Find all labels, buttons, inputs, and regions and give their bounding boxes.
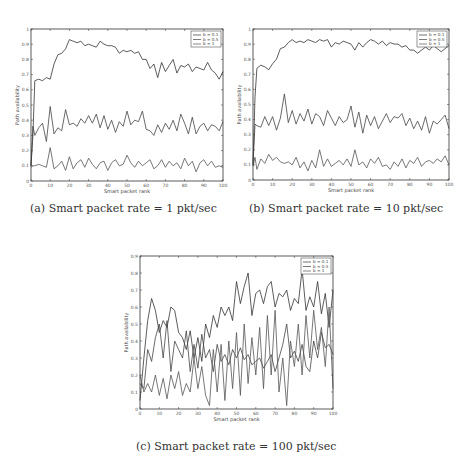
series-line xyxy=(253,150,449,171)
series-line xyxy=(31,40,223,166)
x-tick-label: 70 xyxy=(387,182,393,187)
legend-label: b = 1 xyxy=(313,268,325,273)
legend: b = 0.1b = 0.5b = 1 xyxy=(301,258,331,274)
chart-b: 010203040506070809010000.10.20.30.40.50.… xyxy=(222,10,457,195)
x-tick-label: 80 xyxy=(292,411,298,416)
x-tick-label: 0 xyxy=(30,183,33,188)
y-tick-label: 1 xyxy=(248,27,251,32)
caption-c: (c) Smart packet rate = 100 pkt/sec xyxy=(136,440,336,453)
x-tick-label: 90 xyxy=(201,183,207,188)
x-tick-label: 30 xyxy=(309,182,315,187)
y-tick-label: 0.9 xyxy=(244,42,251,47)
y-tick-label: 0.9 xyxy=(131,254,138,259)
x-tick-label: 10 xyxy=(47,183,53,188)
x-tick-label: 20 xyxy=(289,182,295,187)
series-line xyxy=(253,40,449,165)
x-tick-label: 80 xyxy=(182,183,188,188)
y-tick-label: 0.5 xyxy=(131,322,138,327)
y-tick-label: 0.8 xyxy=(244,57,251,62)
y-tick-label: 0.8 xyxy=(131,271,138,276)
series-line xyxy=(253,94,449,165)
x-axis-label: Smart packet rank xyxy=(328,187,374,194)
x-tick-label: 20 xyxy=(67,183,73,188)
y-tick-label: 0.4 xyxy=(22,118,29,123)
x-tick-label: 30 xyxy=(195,411,201,416)
x-tick-label: 80 xyxy=(407,182,413,187)
y-tick-label: 0.2 xyxy=(22,148,29,153)
y-tick-label: 0.9 xyxy=(22,42,29,47)
x-tick-label: 0 xyxy=(139,411,142,416)
y-tick-label: 0.2 xyxy=(244,147,251,152)
series-line xyxy=(31,148,223,172)
y-tick-label: 0.2 xyxy=(131,373,138,378)
y-tick-label: 0.4 xyxy=(244,117,251,122)
y-tick-label: 1 xyxy=(26,27,29,32)
series-line xyxy=(140,321,333,389)
chart-c: 010203040506070809010000.10.20.30.40.50.… xyxy=(109,237,344,422)
y-tick-label: 0.3 xyxy=(244,132,251,137)
y-tick-label: 0.6 xyxy=(244,87,251,92)
x-tick-label: 90 xyxy=(427,182,433,187)
x-tick-label: 90 xyxy=(311,411,317,416)
y-tick-label: 0.6 xyxy=(131,305,138,310)
legend-label: b = 1 xyxy=(203,41,215,46)
y-axis-label: Path availability xyxy=(14,85,21,125)
x-axis-label: Smart packet rank xyxy=(213,416,259,423)
x-tick-label: 70 xyxy=(272,411,278,416)
caption-b: (b) Smart packet rate = 10 pkt/sec xyxy=(249,202,443,215)
y-axis-label: Path availability xyxy=(123,313,130,353)
y-tick-label: 0.7 xyxy=(131,288,138,293)
legend: b = 0.1b = 0.5b = 1 xyxy=(191,31,221,47)
y-tick-label: 0.5 xyxy=(244,102,251,107)
x-tick-label: 100 xyxy=(329,411,338,416)
y-tick-label: 0 xyxy=(248,178,251,183)
x-tick-label: 70 xyxy=(163,183,169,188)
y-tick-label: 0.1 xyxy=(22,163,29,168)
x-tick-label: 0 xyxy=(252,182,255,187)
y-tick-label: 0 xyxy=(26,179,29,184)
chart-a: 010203040506070809010000.10.20.30.40.50.… xyxy=(0,10,235,195)
y-tick-label: 0.3 xyxy=(131,356,138,361)
series-line xyxy=(31,107,223,166)
y-tick-label: 0.6 xyxy=(22,87,29,92)
y-tick-label: 0.7 xyxy=(244,72,251,77)
y-tick-label: 0.5 xyxy=(22,103,29,108)
legend-label: b = 1 xyxy=(429,41,441,46)
y-tick-label: 0.8 xyxy=(22,57,29,62)
x-tick-label: 10 xyxy=(270,182,276,187)
caption-a: (a) Smart packet rate = 1 pkt/sec xyxy=(30,202,217,215)
y-tick-label: 0.1 xyxy=(131,390,138,395)
y-tick-label: 0 xyxy=(135,407,138,412)
x-tick-label: 30 xyxy=(86,183,92,188)
y-tick-label: 0.1 xyxy=(244,162,251,167)
x-tick-label: 10 xyxy=(156,411,162,416)
y-tick-label: 0.7 xyxy=(22,72,29,77)
chart-c-svg: 010203040506070809010000.10.20.30.40.50.… xyxy=(109,237,344,422)
legend: b = 0.1b = 0.5b = 1 xyxy=(417,31,447,47)
x-tick-label: 100 xyxy=(445,182,454,187)
y-tick-label: 0.4 xyxy=(131,339,138,344)
y-tick-label: 0.3 xyxy=(22,133,29,138)
x-tick-label: 20 xyxy=(176,411,182,416)
chart-a-svg: 010203040506070809010000.10.20.30.40.50.… xyxy=(0,10,235,195)
chart-b-svg: 010203040506070809010000.10.20.30.40.50.… xyxy=(222,10,457,195)
x-axis-label: Smart packet rank xyxy=(104,188,150,195)
y-axis-label: Path availability xyxy=(236,85,243,125)
